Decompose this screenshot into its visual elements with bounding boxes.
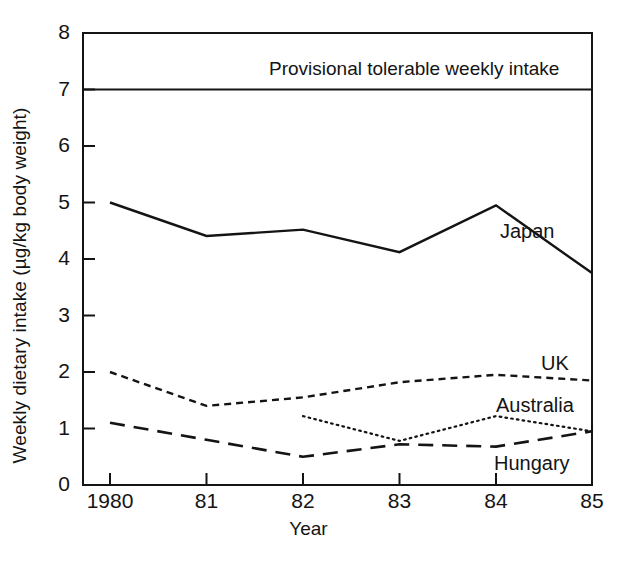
x-axis-title: Year [0,518,617,540]
x-tick-label-83: 83 [360,489,440,513]
series-label-japan: Japan [500,220,555,243]
series-label-uk: UK [541,352,569,375]
x-tick-label-1980: 1980 [70,489,150,513]
plot-frame [83,33,592,485]
y-tick-label-5: 5 [24,190,70,214]
y-tick-label-4: 4 [24,246,70,270]
y-tick-label-7: 7 [24,77,70,101]
y-tick-label-1: 1 [24,416,70,440]
y-tick-label-2: 2 [24,359,70,383]
series-label-hungary: Hungary [494,452,570,475]
x-tick-label-82: 82 [263,489,343,513]
y-tick-label-6: 6 [24,133,70,157]
line-chart-plot [0,0,617,571]
y-tick-label-0: 0 [24,472,70,496]
chart-figure: Weekly dietary intake (µg/kg body weight… [0,0,617,571]
y-tick-label-8: 8 [24,20,70,44]
y-axis-title: Weekly dietary intake (µg/kg body weight… [9,108,31,464]
ptwi-annotation-label: Provisional tolerable weekly intake [269,58,559,80]
series-label-australia: Australia [496,394,574,417]
x-tick-label-84: 84 [456,489,536,513]
y-tick-label-3: 3 [24,303,70,327]
x-tick-label-81: 81 [167,489,247,513]
x-tick-label-85: 85 [552,489,617,513]
